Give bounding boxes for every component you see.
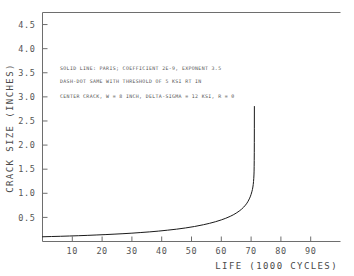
y-tick-label: 4.5 [18,20,35,30]
y-tick-label: 4.0 [18,44,35,54]
x-tick-label: 50 [186,246,197,256]
x-tick-label: 70 [245,246,256,256]
annotation-line: SOLID LINE: PARIS; COEFFICIENT 2E-9, EXP… [60,65,221,71]
crack-growth-plot: 0.51.01.52.02.53.03.54.04.5 102030405060… [0,0,354,276]
chart-figure: 0.51.01.52.02.53.03.54.04.5 102030405060… [0,0,354,276]
x-tick-label: 10 [67,246,78,256]
chart-annotations: SOLID LINE: PARIS; COEFFICIENT 2E-9, EXP… [60,65,235,99]
y-tick-label: 1.5 [18,164,35,174]
x-tick-label: 60 [216,246,227,256]
x-tick-label: 90 [305,246,316,256]
x-tick-label: 40 [156,246,167,256]
y-tick-label: 0.5 [18,213,35,223]
y-tick-label: 3.0 [18,92,35,102]
annotation-line: DASH-DOT SAME WITH THRESHOLD OF 5 KSI RT… [60,78,202,84]
x-tick-label: 80 [275,246,286,256]
y-tick-label: 1.0 [18,188,35,198]
annotation-line: CENTER CRACK, W = 8 INCH, DELTA-SIGMA = … [60,93,235,99]
plot-frame [43,13,341,242]
y-tick-label: 2.5 [18,116,35,126]
y-axis: 0.51.01.52.02.53.03.54.04.5 [18,20,47,223]
y-tick-label: 2.0 [18,140,35,150]
y-axis-title: CRACK SIZE (INCHES) [5,63,15,193]
x-axis-title: LIFE (1000 CYCLES) [215,261,338,271]
y-tick-label: 3.5 [18,68,35,78]
x-axis: 102030405060708090 [67,237,317,256]
x-tick-label: 30 [126,246,137,256]
paris-law-curve [43,107,255,237]
x-tick-label: 20 [96,246,107,256]
